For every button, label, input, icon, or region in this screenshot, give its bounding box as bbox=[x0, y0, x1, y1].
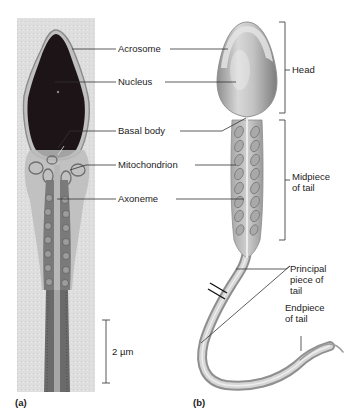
scale-bar bbox=[102, 320, 110, 383]
label-endpiece-line1: Endpiece bbox=[285, 302, 325, 313]
label-midpiece-line1: Midpiece bbox=[292, 171, 330, 182]
sperm-structure-figure: Acrosome Nucleus Basal body Mitochondrio… bbox=[0, 0, 346, 416]
label-axoneme: Axoneme bbox=[118, 193, 158, 204]
figure-artwork bbox=[0, 0, 346, 416]
label-principal-line3: tail bbox=[290, 285, 302, 296]
label-principal-line1: Principal bbox=[290, 263, 326, 274]
label-mitochondrion: Mitochondrion bbox=[118, 159, 178, 170]
label-acrosome: Acrosome bbox=[118, 43, 161, 54]
micrograph-panel bbox=[17, 18, 95, 392]
illustration-panel bbox=[202, 22, 343, 386]
panel-label-b: (b) bbox=[193, 397, 205, 408]
label-endpiece-line2: of tail bbox=[285, 313, 308, 324]
scale-bar-label: 2 µm bbox=[112, 346, 133, 357]
label-head: Head bbox=[292, 64, 315, 75]
label-principal-line2: piece of bbox=[290, 274, 323, 285]
region-brackets bbox=[279, 22, 290, 240]
label-nucleus: Nucleus bbox=[118, 76, 152, 87]
panel-label-a: (a) bbox=[15, 397, 27, 408]
label-midpiece-line2: of tail bbox=[292, 182, 315, 193]
label-basal-body: Basal body bbox=[118, 125, 165, 136]
